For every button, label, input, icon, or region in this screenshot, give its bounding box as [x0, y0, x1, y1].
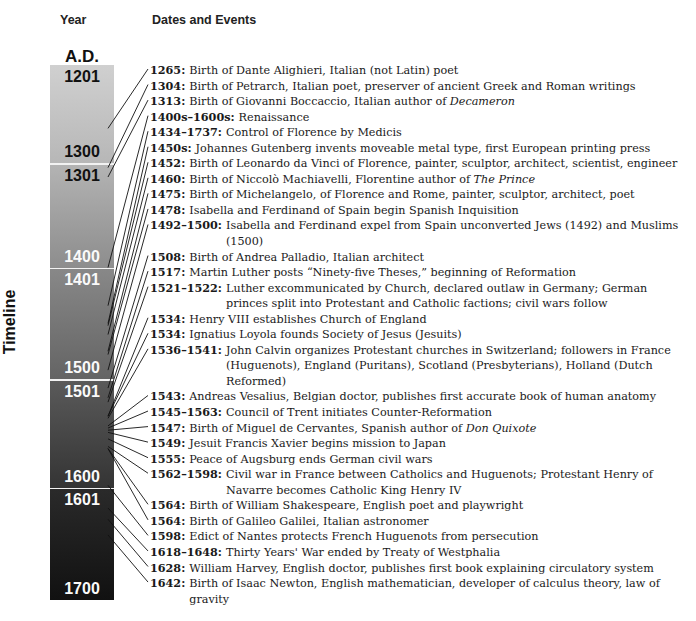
- century-segment-1201-1300: 1201 1300: [50, 65, 114, 163]
- era-label: A.D.: [48, 47, 116, 67]
- connector-line: [108, 395, 148, 425]
- events-column-header: Dates and Events: [152, 13, 256, 27]
- century-segment-1501-1600: 1501 1600: [50, 381, 114, 488]
- century-end-label: 1400: [50, 248, 114, 266]
- timeline-axis-label: Timeline: [1, 290, 19, 355]
- event-item: 1549:Jesuit Francis Xavier begins missio…: [150, 436, 690, 452]
- event-item: 1517:Martin Luther posts “Ninety-five Th…: [150, 265, 690, 281]
- event-date: 1628:: [150, 561, 189, 577]
- event-date: 1460:: [150, 172, 189, 188]
- event-date: 1475:: [150, 187, 189, 203]
- event-date: 1400s–1600s:: [150, 110, 239, 126]
- connector-line: [108, 178, 148, 335]
- event-description: Isabella and Ferdinand expel from Spain …: [226, 218, 690, 249]
- connector-line: [108, 485, 148, 535]
- connector-line: [108, 256, 148, 389]
- event-description: Control of Florence by Medicis: [226, 125, 690, 141]
- event-item: 1534:Henry VIII establishes Church of En…: [150, 312, 690, 328]
- event-description: Ignatius Loyola founds Society of Jesus …: [189, 327, 690, 343]
- event-item: 1452:Birth of Leonardo da Vinci of Flore…: [150, 156, 690, 172]
- event-item: 1265:Birth of Dante Alighieri, Italian (…: [150, 63, 690, 79]
- event-date: 1521–1522:: [150, 281, 226, 312]
- event-item: 1618–1648:Thirty Years' War ended by Tre…: [150, 545, 690, 561]
- event-title-italic: Don Quixote: [466, 422, 537, 435]
- event-date: 1478:: [150, 203, 189, 219]
- event-description: Luther excommunicated by Church, declare…: [226, 281, 690, 312]
- connector-line: [108, 116, 148, 268]
- century-end-label: 1700: [50, 580, 114, 598]
- connector-line: [108, 449, 148, 505]
- event-date: 1452:: [150, 156, 189, 172]
- event-item: 1555:Peace of Augsburg ends German civil…: [150, 452, 690, 468]
- event-date: 1545–1563:: [150, 405, 226, 421]
- century-end-label: 1600: [50, 468, 114, 486]
- event-title-italic: Decameron: [450, 95, 515, 108]
- event-description: Council of Trent initiates Counter-Refor…: [226, 405, 690, 421]
- event-item: 1492–1500:Isabella and Ferdinand expel f…: [150, 218, 690, 249]
- event-description: Birth of Galileo Galilei, Italian astron…: [189, 514, 690, 530]
- event-description: Thirty Years' War ended by Treaty of Wes…: [226, 545, 690, 561]
- timeline-bar: 1201 1300 1301 1400 1401 1500 1501 1600 …: [50, 65, 114, 600]
- century-segment-1401-1500: 1401 1500: [50, 269, 114, 379]
- event-item: 1536–1541:John Calvin organizes Protesta…: [150, 343, 690, 390]
- event-description: Birth of Dante Alighieri, Italian (not L…: [189, 63, 690, 79]
- event-description: Andreas Vesalius, Belgian doctor, publis…: [189, 389, 690, 405]
- connector-line: [108, 535, 148, 582]
- event-description: Martin Luther posts “Ninety-five Theses,…: [189, 265, 690, 281]
- event-description: Birth of Leonardo da Vinci of Florence, …: [189, 156, 690, 172]
- event-date: 1304:: [150, 79, 189, 95]
- event-date: 1543:: [150, 389, 189, 405]
- century-end-label: 1500: [50, 359, 114, 377]
- connector-line: [108, 318, 148, 416]
- connector-line: [108, 432, 148, 442]
- connector-line: [108, 209, 148, 355]
- event-description: Johannes Gutenberg invents moveable meta…: [196, 141, 690, 157]
- century-start-label: 1501: [50, 383, 114, 401]
- century-start-label: 1601: [50, 491, 114, 509]
- event-description: Edict of Nantes protects French Huguenot…: [189, 529, 690, 545]
- event-description: Birth of Petrarch, Italian poet, preserv…: [189, 79, 690, 95]
- connector-line: [108, 224, 148, 370]
- connector-line: [108, 193, 148, 351]
- connector-line: [108, 446, 148, 473]
- century-start-label: 1201: [50, 68, 114, 86]
- event-date: 1642:: [150, 576, 189, 607]
- century-start-label: 1301: [50, 167, 114, 185]
- events-list: 1265:Birth of Dante Alighieri, Italian (…: [150, 63, 690, 607]
- event-item: 1628:William Harvey, English doctor, pub…: [150, 561, 690, 577]
- event-date: 1564:: [150, 498, 189, 514]
- event-item: 1543:Andreas Vesalius, Belgian doctor, p…: [150, 389, 690, 405]
- connector-line: [108, 349, 148, 418]
- event-date: 1547:: [150, 421, 189, 437]
- connector-line: [108, 411, 148, 428]
- event-date: 1562–1598:: [150, 467, 226, 498]
- event-item: 1475:Birth of Michelangelo, of Florence …: [150, 187, 690, 203]
- event-date: 1536–1541:: [150, 343, 226, 390]
- event-date: 1517:: [150, 265, 189, 281]
- event-item: 1434–1737:Control of Florence by Medicis: [150, 125, 690, 141]
- century-start-label: 1401: [50, 271, 114, 289]
- century-segment-1301-1400: 1301 1400: [50, 165, 114, 268]
- event-item: 1562–1598:Civil war in France between Ca…: [150, 467, 690, 498]
- event-item: 1598:Edict of Nantes protects French Hug…: [150, 529, 690, 545]
- event-date: 1265:: [150, 63, 189, 79]
- event-item: 1564:Birth of William Shakespeare, Engli…: [150, 498, 690, 514]
- event-date: 1618–1648:: [150, 545, 226, 561]
- connector-line: [108, 519, 148, 566]
- event-item: 1547:Birth of Miguel de Cervantes, Spani…: [150, 421, 690, 437]
- event-item: 1545–1563:Council of Trent initiates Cou…: [150, 405, 690, 421]
- event-item: 1460:Birth of Niccolò Machiavelli, Flore…: [150, 172, 690, 188]
- connector-line: [108, 147, 148, 324]
- event-description: Birth of Michelangelo, of Florence and R…: [189, 187, 690, 203]
- century-segment-1601-1700: 1601 1700: [50, 489, 114, 600]
- event-item: 1400s–1600s:Renaissance: [150, 110, 690, 126]
- event-date: 1598:: [150, 529, 189, 545]
- event-date: 1534:: [150, 312, 189, 328]
- event-description: Birth of Andrea Palladio, Italian archit…: [189, 250, 690, 266]
- connector-line: [108, 449, 148, 520]
- event-item: 1313:Birth of Giovanni Boccaccio, Italia…: [150, 94, 690, 110]
- event-item: 1478:Isabella and Ferdinand of Spain beg…: [150, 203, 690, 219]
- event-description: Henry VIII establishes Church of England: [189, 312, 690, 328]
- event-item: 1521–1522:Luther excommunicated by Churc…: [150, 281, 690, 312]
- connector-line: [108, 131, 148, 305]
